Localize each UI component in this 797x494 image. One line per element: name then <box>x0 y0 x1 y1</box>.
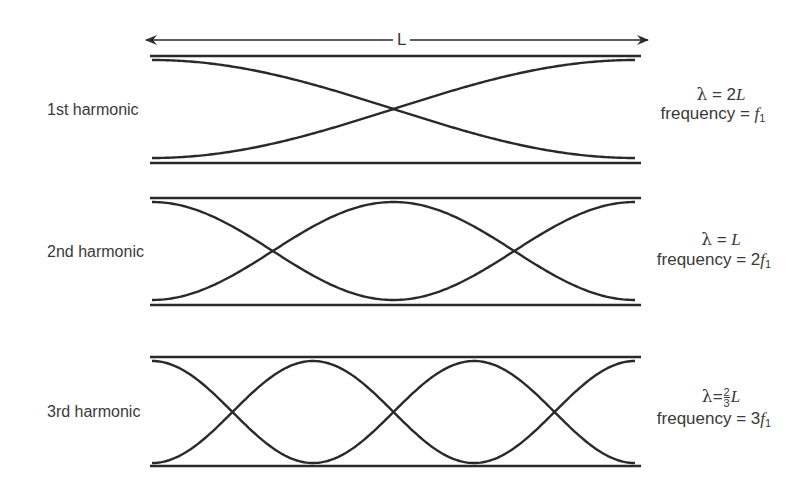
harmonic-label-1: 1st harmonic <box>47 101 139 119</box>
tube-3 <box>150 357 641 466</box>
harmonic-label-3: 3rd harmonic <box>47 403 140 421</box>
wave-envelope-lower <box>152 60 635 158</box>
harmonic-label-2: 2nd harmonic <box>47 243 144 261</box>
wave-envelope-lower <box>152 361 635 463</box>
fraction: 23 <box>724 387 730 408</box>
length-label: L <box>393 30 410 50</box>
frequency-eq-1: frequency = f1 <box>638 104 788 128</box>
tube-2 <box>150 198 641 305</box>
wave-envelope-lower <box>152 202 635 300</box>
wavelength-eq-3: λ=23L <box>666 386 776 408</box>
frequency-eq-2: frequency = 2f1 <box>634 250 794 274</box>
wavelength-eq-2: λ = L <box>666 229 776 250</box>
frequency-eq-3: frequency = 3f1 <box>634 409 794 433</box>
wavelength-eq-1: λ = 2L <box>666 84 776 105</box>
tube-1 <box>150 56 641 163</box>
wave-envelope-upper <box>152 202 635 300</box>
